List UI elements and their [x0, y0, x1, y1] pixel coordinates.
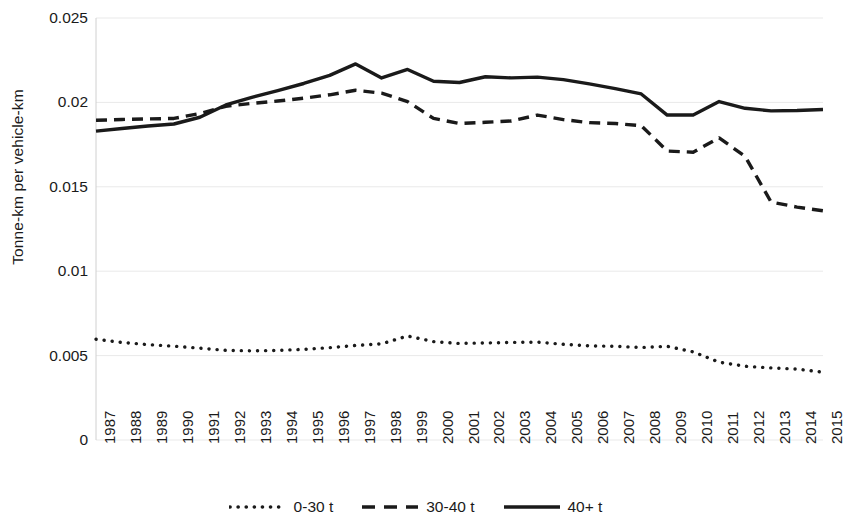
legend-swatch-solid	[503, 501, 561, 513]
x-axis-tick-label: 2006	[595, 411, 610, 444]
series-line-40-t	[96, 64, 823, 131]
x-axis-tick-label: 2007	[621, 411, 636, 444]
x-axis-tick-label: 2012	[751, 411, 766, 444]
series-line-0-30-t	[96, 336, 823, 372]
x-axis-tick-label: 1997	[362, 411, 377, 444]
x-axis-tick-label: 2005	[569, 411, 584, 444]
x-axis-tick-label: 2011	[725, 412, 740, 444]
legend-item[interactable]: 30-40 t	[361, 498, 474, 516]
x-axis-tick-label: 2002	[491, 411, 506, 444]
x-axis-tick-label: 1988	[128, 411, 143, 444]
legend-swatch-dashed	[361, 501, 419, 513]
x-axis-tick-label: 1992	[232, 411, 247, 444]
x-axis-tick-label: 2015	[829, 411, 844, 444]
x-axis-tick-label: 2001	[466, 411, 481, 444]
legend-label: 30-40 t	[426, 498, 474, 516]
x-axis-tick-label: 2008	[647, 411, 662, 444]
x-axis-tick-label: 1999	[414, 411, 429, 444]
x-axis-tick-label: 1993	[258, 411, 273, 444]
series-line-30-40-t	[96, 90, 823, 211]
x-axis-tick-label: 1987	[102, 411, 117, 444]
x-axis-tick-label: 2009	[673, 411, 688, 444]
legend-swatch-dotted	[229, 501, 287, 513]
x-axis-tick-label: 2000	[440, 411, 455, 444]
x-axis-tick-label: 1996	[336, 411, 351, 444]
x-axis-tick-label: 1991	[206, 411, 221, 444]
x-axis-tick-label: 1995	[310, 411, 325, 444]
x-axis-tick-label: 2014	[803, 411, 818, 444]
x-axis-tick-label: 1990	[180, 411, 195, 444]
x-axis-tick-label: 1989	[154, 411, 169, 444]
x-axis-tick-label: 2013	[777, 411, 792, 444]
x-axis-tick-label: 2004	[543, 411, 558, 444]
legend-item[interactable]: 40+ t	[503, 498, 603, 516]
legend-label: 0-30 t	[294, 498, 334, 516]
chart-legend: 0-30 t30-40 t40+ t	[0, 498, 831, 516]
legend-item[interactable]: 0-30 t	[229, 498, 334, 516]
x-axis-tick-label: 1998	[388, 411, 403, 444]
x-axis-tick-label: 2010	[699, 411, 714, 444]
x-axis-tick-label: 1994	[284, 411, 299, 444]
legend-label: 40+ t	[568, 498, 603, 516]
x-axis-tick-label: 2003	[517, 411, 532, 444]
